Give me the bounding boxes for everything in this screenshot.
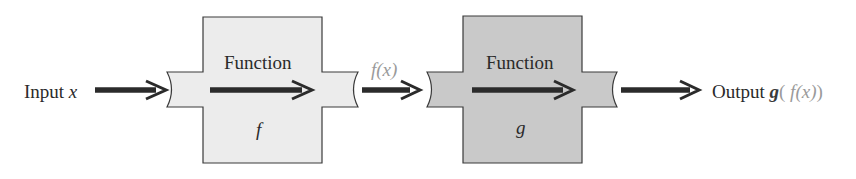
output-close-paren: )	[816, 81, 822, 102]
arrow-output	[621, 81, 699, 99]
output-outer-function: g	[770, 81, 780, 102]
box-g-heading: Function	[486, 53, 554, 72]
output-prefix: Output	[712, 81, 765, 102]
input-variable: x	[69, 81, 77, 102]
box-f-heading: Function	[224, 53, 292, 72]
intermediate-label: f(x)	[371, 60, 397, 79]
output-label: Output g( f(x))	[712, 82, 823, 101]
output-inner: f(x)	[785, 81, 816, 102]
box-f-name: f	[256, 120, 261, 139]
arrow-input	[95, 81, 166, 99]
input-prefix: Input	[24, 81, 64, 102]
box-g-name: g	[516, 118, 526, 137]
arrow-intermediate	[362, 81, 420, 99]
input-label: Input x	[24, 82, 77, 101]
